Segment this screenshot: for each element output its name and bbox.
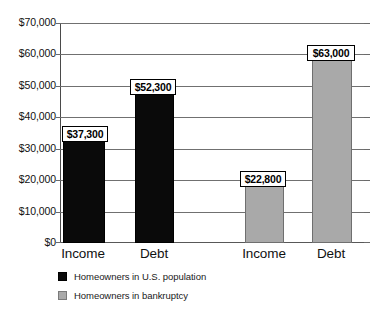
y-tick-10000 bbox=[56, 212, 61, 213]
bar-debt-us-population[interactable] bbox=[135, 79, 174, 243]
x-axis-label-income-2: Income bbox=[234, 246, 294, 262]
legend-label-us-population: Homeowners in U.S. population bbox=[74, 271, 206, 282]
y-tick-0 bbox=[56, 242, 61, 243]
y-tick-30000 bbox=[56, 149, 61, 150]
x-axis-label-income-1: Income bbox=[53, 246, 113, 262]
gridline-70000 bbox=[61, 23, 364, 24]
y-tick-right-70000 bbox=[364, 23, 370, 24]
y-axis-label-50000: $50,000 bbox=[19, 80, 56, 91]
y-tick-60000 bbox=[56, 54, 61, 55]
y-axis-label-70000: $70,000 bbox=[19, 17, 56, 28]
x-axis-label-debt-1: Debt bbox=[124, 246, 184, 262]
y-tick-right-0 bbox=[364, 242, 370, 243]
y-tick-50000 bbox=[56, 86, 61, 87]
chart-legend: Homeowners in U.S. population Homeowners… bbox=[58, 268, 338, 306]
y-axis-label-40000: $40,000 bbox=[19, 111, 56, 122]
y-tick-40000 bbox=[56, 117, 61, 118]
bar-income-us-population[interactable] bbox=[63, 126, 105, 243]
value-label-debt-us-population: $52,300 bbox=[130, 79, 176, 95]
legend-label-bankruptcy: Homeowners in bankruptcy bbox=[74, 290, 188, 301]
value-label-income-bankruptcy: $22,800 bbox=[240, 171, 286, 187]
y-tick-70000 bbox=[56, 23, 61, 24]
y-tick-right-30000 bbox=[364, 149, 370, 150]
bar-chart: $70,000 $60,000 $50,000 $40,000 $30,000 … bbox=[0, 0, 375, 318]
y-tick-20000 bbox=[56, 180, 61, 181]
y-tick-right-50000 bbox=[364, 86, 370, 87]
y-tick-right-40000 bbox=[364, 117, 370, 118]
legend-item-us-population[interactable]: Homeowners in U.S. population bbox=[58, 268, 338, 284]
y-axis-label-30000: $30,000 bbox=[19, 143, 56, 154]
y-tick-right-60000 bbox=[364, 54, 370, 55]
y-tick-right-10000 bbox=[364, 212, 370, 213]
y-axis-label-20000: $20,000 bbox=[19, 174, 56, 185]
legend-swatch-icon-us-population bbox=[58, 272, 67, 281]
x-axis-label-debt-2: Debt bbox=[301, 246, 361, 262]
value-label-debt-bankruptcy: $63,000 bbox=[307, 45, 355, 61]
bar-debt-bankruptcy[interactable] bbox=[312, 45, 352, 243]
value-label-income-us-population: $37,300 bbox=[62, 126, 108, 142]
y-axis-label-10000: $10,000 bbox=[19, 206, 56, 217]
legend-item-bankruptcy[interactable]: Homeowners in bankruptcy bbox=[58, 287, 338, 303]
y-axis-label-60000: $60,000 bbox=[19, 48, 56, 59]
legend-swatch-icon-bankruptcy bbox=[58, 291, 67, 300]
y-tick-right-20000 bbox=[364, 180, 370, 181]
